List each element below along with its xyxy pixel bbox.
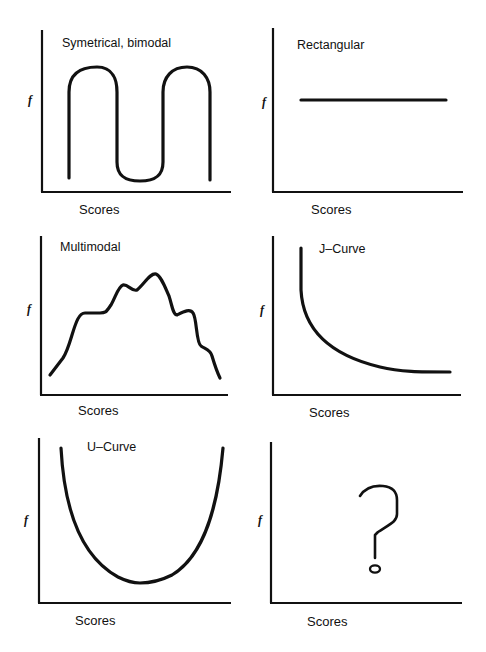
bimodal-curve bbox=[69, 67, 210, 181]
x-axis-label: Scores bbox=[79, 202, 120, 217]
panel-title: U–Curve bbox=[87, 440, 136, 454]
panel-j-curve: J–Curve f Scores bbox=[260, 236, 461, 420]
panel-unknown: f Scores bbox=[258, 442, 462, 629]
y-axis-label: f bbox=[28, 93, 33, 107]
y-axis-label: f bbox=[258, 513, 263, 527]
x-axis-label: Scores bbox=[309, 405, 350, 420]
panel-bimodal: Symetrical, bimodal f Scores bbox=[28, 30, 231, 217]
panel-u-curve: U–Curve f Scores bbox=[24, 438, 231, 628]
panel-title: J–Curve bbox=[319, 242, 366, 256]
panel-title: Multimodal bbox=[60, 240, 120, 254]
panel-multimodal: Multimodal f Scores bbox=[27, 236, 228, 418]
x-axis-label: Scores bbox=[311, 202, 352, 217]
j-curve bbox=[301, 248, 450, 372]
multimodal-curve bbox=[50, 274, 220, 378]
x-axis-label: Scores bbox=[78, 403, 119, 418]
y-axis-label: f bbox=[27, 302, 32, 316]
distribution-shapes-diagram: Symetrical, bimodal f Scores Rectangular… bbox=[0, 0, 486, 652]
y-axis-label: f bbox=[24, 513, 29, 527]
x-axis-label: Scores bbox=[75, 613, 116, 628]
u-curve bbox=[61, 448, 223, 583]
panel-title: Symetrical, bimodal bbox=[62, 36, 171, 50]
question-mark-icon bbox=[360, 486, 397, 573]
y-axis-label: f bbox=[260, 303, 265, 317]
x-axis-label: Scores bbox=[307, 614, 348, 629]
panel-title: Rectangular bbox=[297, 38, 364, 52]
y-axis-label: f bbox=[262, 95, 267, 109]
panel-rectangular: Rectangular f Scores bbox=[262, 28, 463, 217]
